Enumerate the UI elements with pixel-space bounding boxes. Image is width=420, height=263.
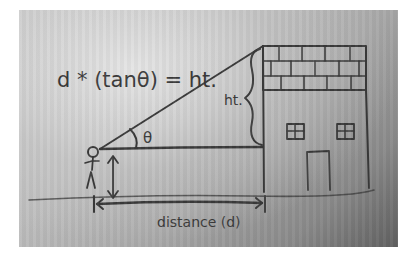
ground-line [29,190,374,200]
building-roof-bricks [263,46,366,90]
window-left [287,124,304,139]
horizontal-line [100,147,263,149]
window-right [337,124,354,139]
sketch: d * (tanθ) = ht. [19,10,398,247]
height-label: ht. [224,92,243,108]
height-brace [245,49,262,145]
distance-arrow [94,196,265,212]
diagram-photo: d * (tanθ) = ht. [19,10,398,247]
angle-arc [130,129,137,148]
formula-text: d * (tanθ) = ht. [57,68,217,92]
angle-label: θ [143,129,152,147]
building [263,46,369,192]
stick-figure [85,147,99,188]
door [307,151,330,190]
distance-label: distance (d) [157,214,241,230]
eye-height-arrow [108,156,118,198]
